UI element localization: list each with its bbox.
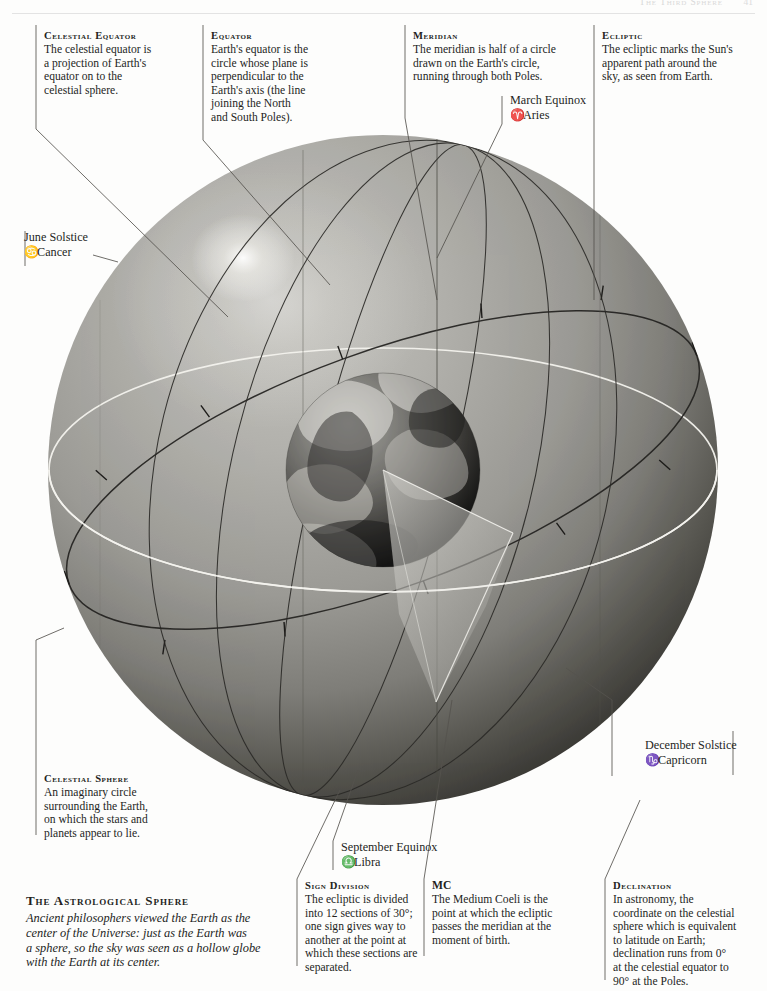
marker-june-solstice: June Solstice ♋Cancer (24, 230, 88, 259)
note-mc: MC The Medium Coeli is the point at whic… (432, 879, 597, 947)
note-heading: MC (432, 879, 597, 893)
colophon-title: The Astrological Sphere (26, 893, 296, 909)
note-ecliptic: Ecliptic The ecliptic marks the Sun's ap… (602, 29, 767, 84)
zodiac-aries-icon: ♈ (510, 108, 523, 123)
zodiac-capricorn-icon: ♑ (645, 753, 658, 768)
note-body: The celestial equator is a projection of… (44, 43, 194, 97)
marker-title: December Solstice (645, 738, 737, 753)
note-meridian: Meridian The meridian is half of a circl… (413, 29, 613, 84)
marker-sign-row: ♑Capricorn (645, 753, 737, 768)
marker-sign-row: ♋Cancer (24, 245, 88, 260)
marker-sign: Libra (354, 855, 380, 869)
note-celestial-sphere: Celestial Sphere An imaginary circle sur… (44, 772, 204, 840)
zodiac-libra-icon: ♎ (341, 855, 354, 870)
marker-december-solstice: December Solstice ♑Capricorn (645, 738, 737, 767)
note-heading: Ecliptic (602, 29, 767, 43)
note-body: The meridian is half of a circle drawn o… (413, 43, 613, 84)
marker-title: June Solstice (24, 230, 88, 245)
marker-sign: Capricorn (658, 753, 707, 767)
marker-title: March Equinox (510, 93, 586, 108)
marker-march-equinox: March Equinox ♈Aries (510, 93, 586, 122)
note-celestial-equator: Celestial Equator The celestial equator … (44, 29, 194, 97)
note-body: In astronomy, the coordinate on the cele… (613, 893, 767, 988)
note-body: An imaginary circle surrounding the Eart… (44, 786, 204, 840)
marker-sign-row: ♈Aries (510, 108, 586, 123)
marker-september-equinox: September Equinox ♎Libra (341, 840, 437, 869)
marker-sign: Aries (523, 108, 549, 122)
note-heading: Celestial Equator (44, 29, 194, 43)
note-heading: Meridian (413, 29, 613, 43)
note-heading: Equator (211, 29, 371, 43)
zodiac-cancer-icon: ♋ (24, 245, 37, 260)
note-declination: Declination In astronomy, the coordinate… (613, 879, 767, 988)
colophon: The Astrological Sphere Ancient philosop… (26, 893, 296, 970)
marker-sign-row: ♎Libra (341, 855, 437, 870)
marker-sign: Cancer (37, 245, 72, 259)
marker-title: September Equinox (341, 840, 437, 855)
note-equator: Equator Earth's equator is the circle wh… (211, 29, 371, 125)
note-body: The ecliptic marks the Sun's apparent pa… (602, 43, 767, 84)
note-body: The Medium Coeli is the point at which t… (432, 893, 597, 947)
colophon-text: Ancient philosophers viewed the Earth as… (26, 911, 296, 970)
note-heading: Declination (613, 879, 767, 893)
note-heading: Celestial Sphere (44, 772, 204, 786)
note-body: Earth's equator is the circle whose plan… (211, 43, 371, 125)
